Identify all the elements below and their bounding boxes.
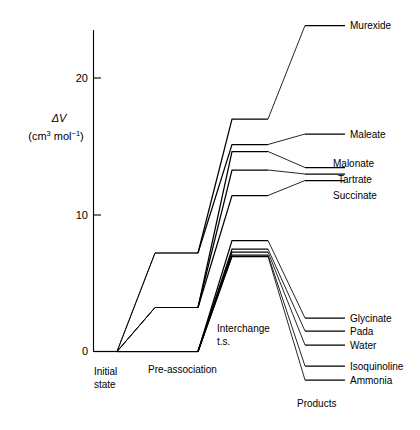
murexide-preassoc-segment [117, 253, 198, 352]
y-axis-title-delta-v: ΔV [51, 112, 68, 124]
units-suffix: ) [80, 130, 84, 142]
malonate-product-drop [268, 152, 305, 168]
isoquinoline-product-drop [268, 255, 305, 366]
tartrate-product-drop [268, 170, 305, 174]
stage-label-preassociation: Pre-association [148, 364, 217, 375]
stage-label-interchange-line1: Interchange [217, 323, 270, 334]
tartrate-ts-segment [198, 170, 268, 308]
product-label-water: Water [350, 340, 377, 351]
series-murexide [117, 26, 345, 352]
maleate-product-drop [268, 134, 305, 145]
y-tick-label-0: 0 [82, 345, 88, 357]
murexide-product-drop [268, 26, 305, 120]
product-label-malonate: Malonate [333, 158, 375, 169]
product-label-glycinate: Glycinate [350, 313, 392, 324]
tartrate-preassoc-segment [117, 308, 198, 352]
ammonia-ts-segment [198, 257, 268, 352]
isoquinoline-ts-segment [198, 255, 268, 352]
product-label-pada: Pada [350, 326, 374, 337]
succinate-preassoc-segment [117, 308, 198, 352]
product-label-isoquinoline: Isoquinoline [350, 361, 404, 372]
series-isoquinoline [198, 255, 345, 366]
units-sup-minus1: −1 [72, 129, 81, 138]
succinate-product-drop [268, 181, 305, 196]
units-mid: mol [51, 130, 72, 142]
stage-label-interchange-line2: t.s. [217, 336, 230, 347]
volume-profile-figure: 20 10 0 ΔV (cm3 mol−1) [0, 0, 420, 430]
product-label-tartrate: Tartrate [338, 174, 372, 185]
y-axis-title: ΔV (cm3 mol−1) [28, 112, 84, 142]
malonate-preassoc-segment [117, 308, 198, 352]
glycinate-product-drop [268, 241, 305, 319]
murexide-ts-segment [198, 119, 268, 253]
stage-label-products: Products [297, 398, 336, 409]
y-tick-label-10: 10 [76, 209, 88, 221]
water-product-drop [268, 252, 305, 345]
units-prefix: (cm [28, 130, 46, 142]
product-label-succinate: Succinate [333, 190, 377, 201]
y-axis: 20 10 0 [76, 30, 101, 357]
stage-label-initial-line1: Initial [94, 366, 117, 377]
maleate-ts-segment [198, 145, 268, 254]
y-tick-label-20: 20 [76, 72, 88, 84]
product-label-ammonia: Ammonia [350, 375, 393, 386]
product-label-murexide: Murexide [350, 20, 392, 31]
product-label-maleate: Maleate [350, 129, 386, 140]
stage-label-initial-line2: state [94, 379, 116, 390]
maleate-preassoc-segment [117, 253, 198, 352]
y-axis-title-units: (cm3 mol−1) [28, 129, 84, 143]
malonate-ts-segment [198, 152, 268, 308]
